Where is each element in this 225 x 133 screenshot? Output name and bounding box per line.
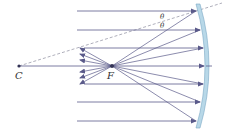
angle-label-bottom: θ	[160, 22, 165, 30]
center-label: C	[15, 70, 23, 81]
center-point	[17, 64, 20, 67]
normal-dashed-line	[19, 3, 222, 66]
focal-point	[110, 64, 114, 68]
angle-label-top: θ	[160, 13, 165, 21]
concave-mirror-diagram: C F θ θ	[0, 0, 225, 133]
focus-label: F	[106, 70, 115, 81]
